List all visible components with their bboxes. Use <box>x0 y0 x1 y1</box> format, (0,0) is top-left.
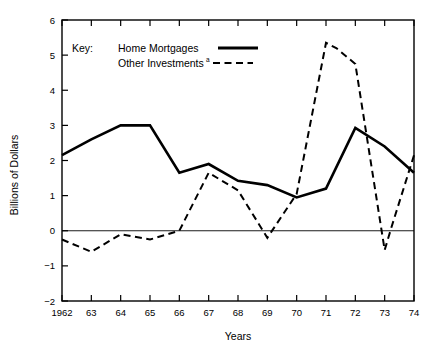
x-tick-label: 74 <box>409 307 420 318</box>
x-tick-label: 64 <box>115 307 126 318</box>
y-tick-label: 1 <box>50 190 55 201</box>
legend-label-home-mortgages: Home Mortgages <box>118 42 199 54</box>
x-tick-label: 71 <box>321 307 332 318</box>
line-chart: −2−10123456 1962636465666768697071727374… <box>0 0 438 351</box>
x-tick-label: 70 <box>291 307 302 318</box>
y-tick-label: −1 <box>44 260 55 271</box>
x-tick-label: 72 <box>350 307 361 318</box>
chart-container: −2−10123456 1962636465666768697071727374… <box>0 0 438 351</box>
x-tick-label: 68 <box>233 307 244 318</box>
legend-label-other-investments: Other Investments <box>118 57 204 69</box>
y-tick-label: 5 <box>50 50 55 61</box>
x-axis-title: Years <box>225 330 251 342</box>
x-tick-label: 63 <box>86 307 97 318</box>
chart-legend: Key: Home Mortgages Other Investments a <box>72 42 258 69</box>
x-tick-label: 67 <box>203 307 214 318</box>
y-tick-label: 6 <box>50 15 55 26</box>
y-axis-tick-labels: −2−10123456 <box>44 15 55 307</box>
series-home-mortgages <box>62 125 414 197</box>
legend-key-label: Key: <box>72 42 93 54</box>
y-tick-label: 3 <box>50 120 55 131</box>
y-tick-label: −2 <box>44 296 55 307</box>
y-axis-ticks <box>62 20 68 301</box>
x-axis-tick-labels: 1962636465666768697071727374 <box>51 307 419 318</box>
x-tick-label: 1962 <box>51 307 72 318</box>
series-other-investments <box>62 43 414 252</box>
x-tick-label: 73 <box>379 307 390 318</box>
y-axis-title: Billions of Dollars <box>8 135 20 216</box>
x-tick-label: 69 <box>262 307 273 318</box>
y-tick-label: 0 <box>50 225 55 236</box>
x-tick-label: 65 <box>145 307 156 318</box>
y-tick-label: 4 <box>50 85 55 96</box>
y-tick-label: 2 <box>50 155 55 166</box>
legend-footnote-marker: a <box>206 56 210 63</box>
x-tick-label: 66 <box>174 307 185 318</box>
